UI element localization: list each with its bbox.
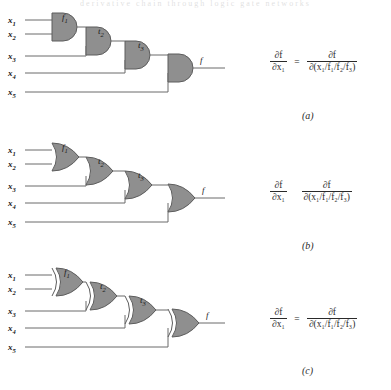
input-label-x4: x4 — [7, 323, 17, 335]
input-label-x5: x5 — [7, 87, 17, 99]
input-label-x2: x2 — [7, 159, 17, 171]
wire-x4 — [25, 60, 125, 73]
input-label-x4: x4 — [7, 68, 17, 80]
wire-x4 — [25, 190, 125, 203]
caption-c: (c) — [302, 365, 313, 376]
equation-a-rhs-num: ∂f — [307, 50, 357, 61]
equation-a-lhs-num: ∂f — [270, 50, 287, 61]
wire-x5 — [25, 73, 168, 92]
wire-x4 — [25, 315, 125, 328]
gate-4-or — [168, 184, 195, 212]
equation-b-rhs-num: ∂f — [302, 180, 352, 191]
wire-x3 — [25, 176, 86, 186]
input-label-x3: x3 — [7, 181, 17, 193]
input-label-x2: x2 — [7, 284, 17, 296]
panel-b: x1 x2 x3 x4 x5 f1 t2 t3 f ∂f ∂x₁ ∂f ∂(x₁… — [0, 140, 391, 260]
input-label-x5: x5 — [7, 342, 17, 354]
panel-a: x1 x2 x3 x4 x5 f1 t2 t3 f ∂f ∂x₁ = ∂f ∂(… — [0, 10, 391, 130]
input-label-x1: x1 — [7, 145, 16, 157]
input-label-x3: x3 — [7, 306, 17, 318]
equation-a-lhs-den: ∂x₁ — [270, 61, 287, 73]
equation-c-lhs-num: ∂f — [270, 307, 287, 318]
equation-a-rhs-den: ∂(x₁/f₁/f₂/f₃) — [307, 61, 357, 73]
gate-4-xor — [168, 309, 199, 337]
equation-b-lhs: ∂f ∂x₁ — [270, 180, 287, 203]
circuit-diagram-a: x1 x2 x3 x4 x5 f1 t2 t3 f — [0, 10, 250, 110]
circuit-diagram-c: x1 x2 x3 x4 x5 f1 t2 t3 f — [0, 265, 250, 365]
equation-c-lhs: ∂f ∂x₁ — [270, 307, 287, 330]
equation-b-lhs-den: ∂x₁ — [270, 191, 287, 203]
equation-b-lhs-num: ∂f — [270, 180, 287, 191]
wire-x5 — [25, 203, 168, 222]
signal-label-t2: t2 — [98, 156, 105, 168]
wire-x3 — [25, 301, 86, 311]
input-label-x1: x1 — [7, 270, 16, 282]
wire-x5 — [25, 328, 168, 347]
cut-off-header-text: derivative chain through logic gate netw… — [0, 0, 391, 8]
equation-a-relation: = — [289, 57, 304, 67]
equation-c-lhs-den: ∂x₁ — [270, 318, 287, 330]
caption-a: (a) — [302, 110, 314, 121]
equation-c-relation: = — [289, 314, 304, 324]
signal-label-t3: t3 — [140, 295, 147, 307]
equation-c-rhs: ∂f ∂(x₁/f₁/f₂/f₃) — [307, 307, 357, 330]
equation-a: ∂f ∂x₁ = ∂f ∂(x₁/f₁/f₂/f₃) — [270, 50, 357, 73]
caption-b: (b) — [302, 240, 314, 251]
input-label-x3: x3 — [7, 51, 17, 63]
equation-c: ∂f ∂x₁ = ∂f ∂(x₁/f₁/f₂/f₃) — [270, 307, 357, 330]
equation-b-rhs-den: ∂(x₁/f₁/f₂/f₃) — [302, 191, 352, 203]
signal-label-f1: f1 — [64, 267, 70, 279]
input-label-x5: x5 — [7, 217, 17, 229]
output-label-f: f — [200, 55, 204, 65]
equation-b: ∂f ∂x₁ ∂f ∂(x₁/f₁/f₂/f₃) — [270, 180, 352, 203]
equation-c-rhs-num: ∂f — [307, 307, 357, 318]
input-label-x2: x2 — [7, 29, 17, 41]
circuit-diagram-b: x1 x2 x3 x4 x5 f1 t2 t3 f — [0, 140, 250, 240]
equation-a-rhs: ∂f ∂(x₁/f₁/f₂/f₃) — [307, 50, 357, 73]
signal-label-f1: f1 — [62, 142, 68, 154]
wire-x3 — [25, 46, 86, 56]
output-label-f: f — [206, 310, 210, 320]
input-label-x1: x1 — [7, 15, 16, 27]
equation-a-lhs: ∂f ∂x₁ — [270, 50, 287, 73]
signal-label-t2: t2 — [100, 281, 107, 293]
signal-label-t3: t3 — [138, 170, 145, 182]
gate-4-and — [168, 54, 193, 82]
input-label-x4: x4 — [7, 198, 17, 210]
panel-c: x1 x2 x3 x4 x5 f1 t2 t3 f ∂f ∂x₁ = ∂f ∂(… — [0, 265, 391, 390]
equation-b-rhs: ∂f ∂(x₁/f₁/f₂/f₃) — [302, 180, 352, 203]
equation-c-rhs-den: ∂(x₁/f₁/f₂/f₃) — [307, 318, 357, 330]
output-label-f: f — [202, 185, 206, 195]
